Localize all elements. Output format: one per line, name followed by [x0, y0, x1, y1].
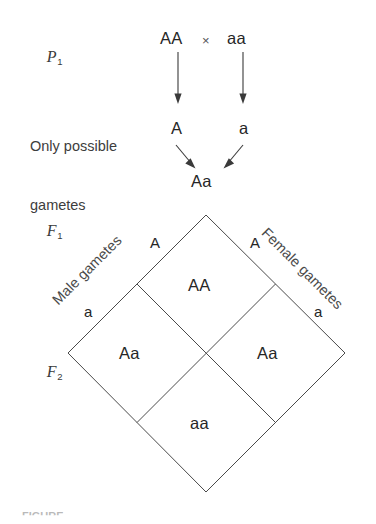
generation-label-p1: P1	[30, 29, 62, 86]
f1-genotype: Aa	[191, 172, 212, 191]
punnett-cell-top: AA	[188, 276, 211, 295]
f2-subscript: 2	[57, 371, 62, 382]
punnett-cell-right: Aa	[257, 344, 278, 363]
allele-label-top-left: A	[150, 234, 160, 252]
gamete-left: A	[171, 119, 182, 138]
figure-caption-text: FIGURE	[22, 511, 64, 521]
parent-genotype-left: AA	[160, 29, 183, 48]
arrow-p1-right	[239, 52, 246, 104]
arrow-gamete-right-to-f1	[224, 145, 244, 169]
allele-label-top-right: A	[250, 234, 260, 252]
arrow-p1-left	[174, 52, 181, 104]
generation-label-f2: F2	[30, 344, 62, 401]
cross-symbol: ×	[202, 33, 210, 48]
allele-label-bottom-right: a	[314, 303, 323, 321]
f1-subscript: 1	[57, 230, 62, 241]
allele-label-bottom-left: a	[84, 303, 93, 321]
parent-genotype-right: aa	[227, 29, 246, 48]
arrow-gamete-left-to-f1	[176, 145, 196, 169]
gametes-caption-line1: Only possible	[30, 137, 117, 157]
punnett-cell-left: Aa	[119, 344, 140, 363]
f1-letter: F	[47, 222, 57, 239]
generation-label-f1: F1	[30, 203, 62, 260]
genetics-figure: P1 AA × aa Only possible gametes A a Aa …	[0, 0, 376, 524]
gamete-right: a	[239, 119, 248, 138]
f2-letter: F	[47, 363, 57, 380]
p1-letter: P	[47, 48, 57, 65]
figure-caption: FIGURE	[22, 511, 64, 522]
p1-subscript: 1	[57, 56, 62, 67]
punnett-cell-bottom: aa	[190, 414, 209, 433]
